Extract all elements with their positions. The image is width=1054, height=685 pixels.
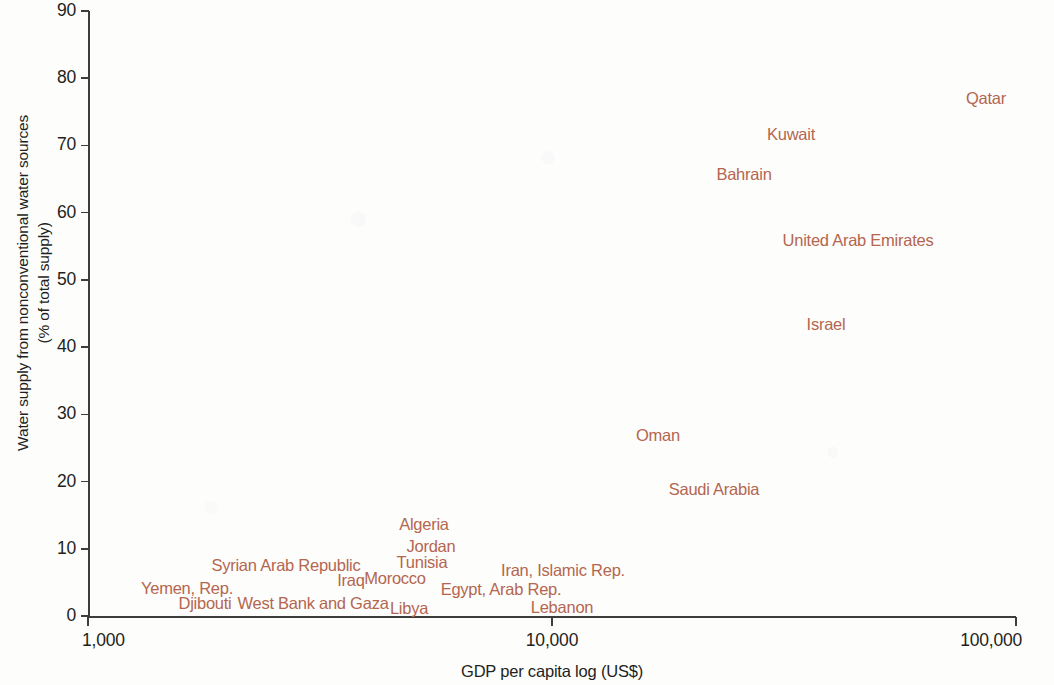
y-axis-tick xyxy=(81,145,89,147)
y-axis-line xyxy=(88,11,90,617)
data-point-label: United Arab Emirates xyxy=(783,232,934,249)
y-axis-tick-label-text: 80 xyxy=(30,67,76,88)
x-axis-tick-label: 10,000 xyxy=(526,630,578,651)
y-axis-title-line2: (% of total supply) xyxy=(34,103,55,463)
scatter-chart: 0102030405060708090 1,00010,000100,000 W… xyxy=(0,0,1054,685)
data-point-label: Bahrain xyxy=(716,166,771,183)
data-point-label: Kuwait xyxy=(767,126,815,143)
x-axis-tick xyxy=(1015,617,1017,626)
y-axis-tick-label: 0 xyxy=(0,605,76,627)
y-axis-tick-label: 80 xyxy=(0,67,76,89)
y-axis-tick xyxy=(81,279,89,281)
data-point-label: Egypt, Arab Rep. xyxy=(441,581,562,598)
x-axis-tick-label: 1,000 xyxy=(82,630,125,651)
y-axis-tick xyxy=(81,212,89,214)
data-point-label: Qatar xyxy=(966,90,1006,107)
x-axis-title: GDP per capita log (US$) xyxy=(88,662,1016,681)
x-axis-tick xyxy=(551,617,553,626)
data-point-label: Israel xyxy=(807,316,846,333)
y-axis-tick-label-text: 10 xyxy=(30,538,76,559)
data-point-label: Saudi Arabia xyxy=(669,481,760,498)
y-axis-tick xyxy=(81,77,89,79)
x-axis-tick-label: 100,000 xyxy=(960,630,1022,651)
y-axis-tick-label: 20 xyxy=(0,471,76,493)
y-axis-tick xyxy=(81,548,89,550)
data-point-label: Iraq xyxy=(337,572,364,589)
y-axis-title: Water supply from nonconventional water … xyxy=(13,103,55,463)
y-axis-tick xyxy=(81,414,89,416)
y-axis-tick-label-text: 20 xyxy=(30,471,76,492)
y-axis-tick xyxy=(81,10,89,12)
y-axis-title-line1: Water supply from nonconventional water … xyxy=(14,115,31,451)
data-point-label: Lebanon xyxy=(531,599,594,616)
x-axis-tick xyxy=(87,617,89,626)
y-axis-tick xyxy=(81,346,89,348)
y-axis-tick xyxy=(81,481,89,483)
y-axis-tick-label-text: 0 xyxy=(30,605,76,626)
data-point-label: Oman xyxy=(636,427,680,444)
data-point-label: Morocco xyxy=(364,570,426,587)
data-point-label: West Bank and Gaza xyxy=(237,595,388,612)
y-axis-tick-label: 90 xyxy=(0,0,76,22)
data-point-label: Algeria xyxy=(399,516,449,533)
y-axis-tick-label-text: 90 xyxy=(30,0,76,21)
y-axis-tick-label: 10 xyxy=(0,538,76,560)
data-point-label: Iran, Islamic Rep. xyxy=(501,562,625,579)
data-point-label: Djibouti xyxy=(178,595,231,612)
data-point-label: Libya xyxy=(390,600,428,617)
